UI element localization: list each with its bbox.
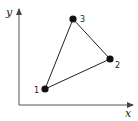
edge-2-3	[73, 19, 110, 59]
point-1	[41, 85, 48, 92]
y-axis-label: y	[5, 6, 13, 19]
point-3-label: 3	[80, 15, 85, 24]
triangle-diagram: y x 1 2 3	[0, 0, 138, 121]
point-2-label: 2	[115, 61, 120, 70]
point-2	[106, 55, 113, 62]
point-3	[69, 15, 76, 22]
point-1-label: 1	[34, 86, 39, 95]
diagram-svg: y x 1 2 3	[0, 0, 138, 121]
x-axis-label: x	[125, 107, 132, 120]
